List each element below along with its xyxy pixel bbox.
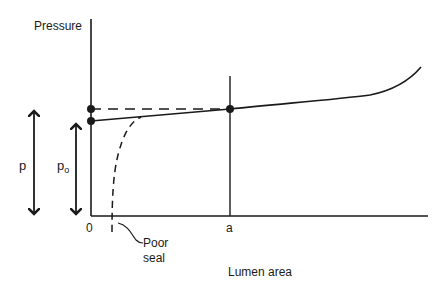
pressure-curve bbox=[91, 67, 421, 121]
poor-seal-leader bbox=[118, 223, 143, 243]
poor-seal-label-line1: Poor bbox=[143, 236, 168, 251]
diagram-canvas bbox=[0, 0, 444, 285]
x-tick-origin: 0 bbox=[86, 221, 93, 235]
poor-seal-curve bbox=[112, 117, 141, 232]
point-p0-on-axis bbox=[87, 117, 95, 125]
poor-seal-label-line2: seal bbox=[143, 251, 168, 266]
p0-label-subscript: o bbox=[64, 165, 69, 175]
y-axis-label: Pressure bbox=[34, 19, 82, 33]
p0-label: po bbox=[57, 158, 69, 173]
poor-seal-label: Poor seal bbox=[143, 236, 168, 266]
x-tick-a: a bbox=[226, 221, 233, 235]
point-p-on-axis bbox=[87, 105, 95, 113]
point-a-on-curve bbox=[226, 105, 234, 113]
x-axis-label: Lumen area bbox=[228, 265, 292, 279]
pressure-lumen-area-diagram: Pressure Lumen area 0 a p po Poor seal bbox=[0, 0, 444, 285]
p-label: p bbox=[19, 158, 26, 173]
